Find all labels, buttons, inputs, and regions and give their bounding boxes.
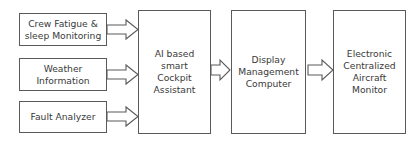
- arrow-ai-to-display-icon: [211, 60, 230, 80]
- arrow-display-to-ecam-icon: [308, 60, 333, 80]
- arrow-fault-to-ai-icon: [107, 107, 138, 126]
- arrow-crew-to-ai-icon: [107, 20, 138, 39]
- arrows-layer: [0, 0, 420, 141]
- arrow-weather-to-ai-icon: [107, 65, 138, 84]
